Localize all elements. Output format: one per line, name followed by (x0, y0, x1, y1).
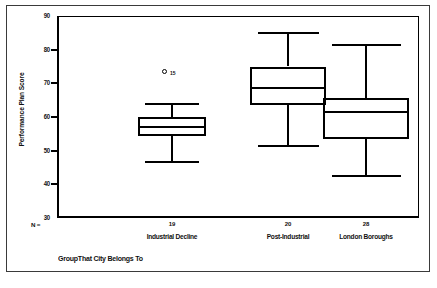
lower-whisker-line (365, 139, 367, 176)
y-tick-label: 50 (32, 147, 50, 154)
group-count: 19 (152, 221, 192, 227)
lower-whisker-cap (258, 145, 319, 147)
group-count: 20 (268, 221, 308, 227)
y-axis-tick-labels: 30405060708090 (24, 0, 50, 288)
lower-whisker-line (171, 136, 173, 163)
upper-whisker-line (365, 45, 367, 99)
outlier-label: 15 (170, 70, 176, 76)
upper-whisker-line (287, 33, 289, 67)
n-equals-label: N = (31, 221, 40, 228)
lower-whisker-line (287, 105, 289, 145)
interquartile-box (250, 67, 326, 106)
y-tick-label: 70 (32, 79, 50, 86)
median-line (323, 111, 409, 113)
y-tick-label: 30 (32, 214, 50, 221)
group-count: 28 (346, 221, 386, 227)
y-tick-label: 40 (32, 180, 50, 187)
boxplot-figure: Performance Plan Score 30405060708090 15… (0, 0, 437, 288)
y-tick-label: 80 (32, 46, 50, 53)
median-line (138, 126, 206, 128)
group-label: Industrial Decline (116, 233, 229, 240)
upper-whisker-line (171, 104, 173, 117)
x-axis-title: GroupThat City Belongs To (58, 254, 143, 263)
group-label: London Boroughs (310, 233, 423, 240)
median-line (250, 87, 326, 89)
interquartile-box (323, 98, 409, 138)
y-tick-label: 60 (32, 113, 50, 120)
lower-whisker-cap (145, 161, 199, 163)
outlier-marker (162, 69, 167, 74)
y-tick-label: 90 (32, 12, 50, 19)
lower-whisker-cap (332, 175, 401, 177)
